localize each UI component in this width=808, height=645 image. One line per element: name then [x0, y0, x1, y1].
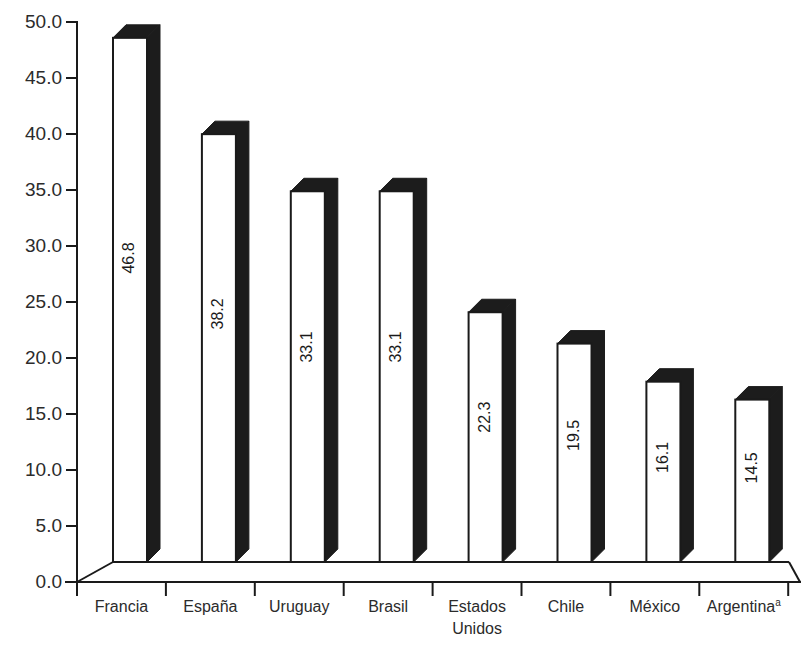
y-tick-label: 5.0 [36, 515, 62, 536]
x-category-label: Estados [448, 598, 506, 615]
bar-value-label: 19.5 [565, 420, 582, 451]
y-tick-label: 50.0 [25, 11, 62, 32]
y-tick-label: 35.0 [25, 179, 62, 200]
bar-value-label: 22.3 [476, 401, 493, 432]
y-tick-label: 10.0 [25, 459, 62, 480]
x-category-label: Unidos [452, 620, 502, 637]
bar-front-face [380, 191, 414, 562]
bar-side-face [769, 387, 782, 562]
bar-front-face [202, 134, 236, 562]
x-category-label: España [183, 598, 237, 615]
y-tick-label: 15.0 [25, 403, 62, 424]
y-tick-label: 40.0 [25, 123, 62, 144]
bar-side-face [236, 121, 249, 562]
bar-side-face [147, 25, 160, 562]
x-category-label: Uruguay [269, 598, 329, 615]
y-axis-tick-labels: 50.045.040.035.030.025.020.015.010.05.00… [25, 11, 62, 592]
y-tick-label: 30.0 [25, 235, 62, 256]
chart-canvas: 50.045.040.035.030.025.020.015.010.05.00… [0, 0, 808, 645]
x-category-label: Francia [95, 598, 148, 615]
bar-value-label: 14.5 [743, 452, 760, 483]
x-category-label: Argentinaa [707, 597, 782, 615]
bar-front-face [558, 344, 592, 562]
bar-value-label: 33.1 [298, 331, 315, 362]
bar-side-face [325, 178, 338, 562]
bar-front-face [113, 38, 147, 562]
bar-side-face [680, 369, 693, 562]
bar-value-label: 38.2 [209, 298, 226, 329]
y-tick-label: 20.0 [25, 347, 62, 368]
bar-side-face [503, 299, 516, 562]
x-axis-ticks [77, 582, 788, 596]
bar-front-face [291, 191, 325, 562]
x-category-label: México [630, 598, 681, 615]
bar-chart: 50.045.040.035.030.025.020.015.010.05.00… [0, 0, 808, 645]
y-tick-label: 25.0 [25, 291, 62, 312]
chart-floor [77, 562, 800, 582]
x-axis-category-labels: FranciaEspañaUruguayBrasilEstadosUnidosC… [95, 597, 781, 637]
x-category-label: Brasil [368, 598, 408, 615]
bar-value-label: 46.8 [120, 242, 137, 273]
x-category-label: Chile [548, 598, 585, 615]
y-axis-ticks [66, 22, 77, 582]
bar-value-label: 16.1 [654, 442, 671, 473]
bar-value-label: 33.1 [387, 331, 404, 362]
bar-front-face [469, 312, 503, 562]
y-tick-label: 0.0 [36, 571, 62, 592]
bar-side-face [592, 331, 605, 562]
y-tick-label: 45.0 [25, 67, 62, 88]
bar-series [113, 25, 782, 562]
bar-side-face [414, 178, 427, 562]
